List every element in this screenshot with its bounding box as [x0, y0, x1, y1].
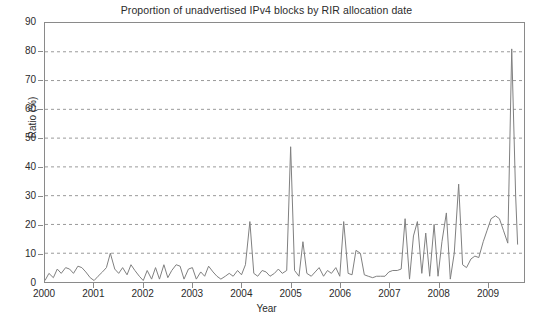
y-tick-label: 30: [0, 191, 36, 201]
y-tick-mark: [38, 254, 43, 255]
x-tick-label: 2001: [73, 288, 113, 299]
y-tick-label: 10: [0, 249, 36, 259]
x-tick-mark: [291, 283, 292, 288]
x-tick-label: 2005: [271, 288, 311, 299]
x-tick-label: 2000: [24, 288, 64, 299]
y-tick-mark: [38, 138, 43, 139]
y-tick-label: 0: [0, 278, 36, 288]
chart-figure: Proportion of unadvertised IPv4 blocks b…: [0, 0, 533, 322]
x-tick-mark: [488, 283, 489, 288]
y-axis-label: Ratio (%): [27, 58, 38, 178]
plot-area: [44, 22, 525, 283]
y-tick-mark: [38, 80, 43, 81]
x-tick-mark: [439, 283, 440, 288]
y-tick-mark: [38, 109, 43, 110]
x-tick-mark: [192, 283, 193, 288]
y-tick-label: 20: [0, 220, 36, 230]
y-tick-mark: [38, 51, 43, 52]
x-tick-mark: [340, 283, 341, 288]
gridlines: [45, 52, 524, 253]
x-tick-label: 2003: [172, 288, 212, 299]
x-tick-mark: [389, 283, 390, 288]
data-series-line: [45, 49, 518, 281]
y-tick-mark: [38, 225, 43, 226]
x-tick-label: 2002: [123, 288, 163, 299]
x-tick-label: 2006: [320, 288, 360, 299]
y-tick-label: 90: [0, 17, 36, 27]
y-tick-label: 80: [0, 46, 36, 56]
y-tick-mark: [38, 167, 43, 168]
plot-svg: [45, 23, 524, 282]
x-tick-mark: [241, 283, 242, 288]
y-tick-mark: [38, 196, 43, 197]
chart-title: Proportion of unadvertised IPv4 blocks b…: [0, 4, 533, 16]
x-axis-label: Year: [0, 303, 533, 314]
x-tick-label: 2009: [468, 288, 508, 299]
x-tick-mark: [93, 283, 94, 288]
x-tick-label: 2008: [419, 288, 459, 299]
x-tick-mark: [143, 283, 144, 288]
x-tick-label: 2004: [221, 288, 261, 299]
x-tick-label: 2007: [369, 288, 409, 299]
